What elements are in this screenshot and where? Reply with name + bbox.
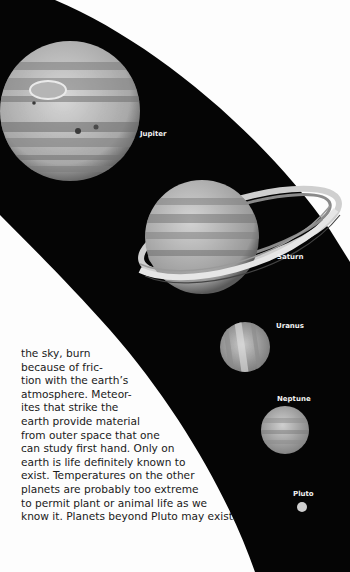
- book-page: Jupiter Saturn: [0, 0, 350, 572]
- saturn-label: Saturn: [277, 253, 304, 261]
- text-line: from outer space that one: [21, 429, 281, 443]
- text-line: can study first hand. Only on: [21, 442, 281, 456]
- text-line: tion with the earth’s: [21, 374, 281, 388]
- uranus-label: Uranus: [276, 322, 304, 330]
- text-line: planets are probably too extreme: [21, 483, 281, 497]
- neptune-label: Neptune: [277, 395, 311, 403]
- pluto-label: Pluto: [293, 490, 314, 498]
- text-line: the sky, burn: [21, 347, 281, 361]
- text-line: know it. Planets beyond Pluto may exist.: [21, 510, 281, 524]
- jupiter-label: Jupiter: [139, 130, 167, 138]
- text-line: exist. Temperatures on the other: [21, 469, 281, 483]
- text-line: earth is life definitely known to: [21, 456, 281, 470]
- text-line: to permit plant or animal life as we: [21, 497, 281, 511]
- body-paragraph: the sky, burn because of fric- tion with…: [21, 347, 281, 524]
- text-line: earth provide material: [21, 415, 281, 429]
- text-line: atmosphere. Meteor-: [21, 388, 281, 402]
- text-line: ites that strike the: [21, 401, 281, 415]
- pluto-planet: [297, 502, 307, 512]
- text-line: because of fric-: [21, 361, 281, 375]
